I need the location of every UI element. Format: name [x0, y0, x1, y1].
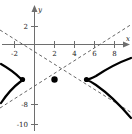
- center-point-marker: [51, 76, 57, 82]
- hyperbola-curve-group: [1, 58, 131, 118]
- hyperbola-graph-figure: -2 2 4 6 8 2 -8 -10 x y: [0, 0, 132, 134]
- y-axis-arrow-icon: [32, 5, 38, 12]
- x-axis-label: x: [126, 35, 130, 43]
- vertex-left-point-marker: [20, 77, 25, 82]
- x-tick-label-8: 8: [112, 50, 116, 58]
- asymptote-negative-slope: [0, 30, 132, 113]
- y-axis-label: y: [37, 6, 43, 14]
- hyperbola-right-branch: [86, 58, 131, 118]
- y-tick-label-2: 2: [24, 23, 28, 31]
- hyperbola-left-branch: [1, 64, 23, 103]
- x-tick-label-2: 2: [52, 50, 56, 58]
- y-tick-label--10: -10: [17, 121, 28, 129]
- vertex-right-point-marker: [84, 77, 89, 82]
- y-tick-label--8: -8: [21, 101, 28, 109]
- graph-canvas: -2 2 4 6 8 2 -8 -10 x y: [0, 0, 132, 134]
- x-tick-label-6: 6: [92, 50, 97, 58]
- x-tick-label-4: 4: [72, 50, 77, 58]
- x-tick-label--2: -2: [11, 50, 18, 58]
